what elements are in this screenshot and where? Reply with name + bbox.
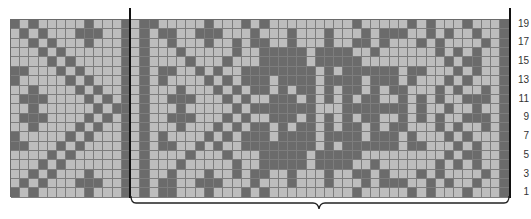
stitch-cell [177, 20, 186, 29]
stitch-cell [131, 67, 140, 76]
stitch-cell [186, 20, 195, 29]
stitch-cell [482, 114, 491, 123]
stitch-cell [214, 151, 223, 160]
stitch-cell [491, 95, 500, 104]
stitch-cell [140, 57, 149, 66]
stitch-cell [131, 57, 140, 66]
stitch-cell [66, 132, 75, 141]
stitch-cell [427, 132, 436, 141]
stitch-cell [57, 104, 66, 113]
stitch-cell [177, 179, 186, 188]
stitch-cell [103, 114, 112, 123]
stitch-cell [362, 160, 371, 169]
stitch-cell [168, 29, 177, 38]
stitch-cell [159, 151, 168, 160]
stitch-cell [427, 67, 436, 76]
stitch-cell [66, 67, 75, 76]
stitch-cell [325, 20, 334, 29]
stitch-cell [427, 86, 436, 95]
row-label: 3 [523, 169, 529, 179]
stitch-cell [270, 57, 279, 66]
stitch-cell [417, 123, 426, 132]
stitch-cell [242, 39, 251, 48]
stitch-cell [233, 170, 242, 179]
stitch-cell [307, 132, 316, 141]
stitch-cell [445, 179, 454, 188]
stitch-cell [270, 132, 279, 141]
stitch-cell [214, 179, 223, 188]
stitch-cell [482, 170, 491, 179]
stitch-cell [380, 142, 389, 151]
stitch-cell [270, 39, 279, 48]
stitch-cell [39, 39, 48, 48]
stitch-cell [417, 170, 426, 179]
stitch-cell [491, 57, 500, 66]
stitch-cell [214, 67, 223, 76]
stitch-cell [159, 179, 168, 188]
row-label: 19 [518, 19, 529, 29]
stitch-cell [343, 142, 352, 151]
stitch-cell [11, 48, 20, 57]
stitch-cell [473, 95, 482, 104]
stitch-cell [168, 57, 177, 66]
stitch-cell [445, 104, 454, 113]
stitch-cell [242, 132, 251, 141]
stitch-cell [279, 123, 288, 132]
stitch-cell [205, 20, 214, 29]
stitch-cell [168, 160, 177, 169]
stitch-cell [473, 57, 482, 66]
stitch-cell [417, 95, 426, 104]
stitch-cell [48, 29, 57, 38]
stitch-cell [196, 132, 205, 141]
stitch-cell [408, 104, 417, 113]
stitch-cell [399, 123, 408, 132]
stitch-cell [390, 76, 399, 85]
stitch-cell [454, 76, 463, 85]
stitch-cell [150, 132, 159, 141]
stitch-cell [113, 188, 122, 197]
stitch-cell [177, 29, 186, 38]
stitch-cell [159, 170, 168, 179]
stitch-cell [48, 104, 57, 113]
stitch-cell [251, 114, 260, 123]
stitch-cell [427, 142, 436, 151]
stitch-cell [473, 104, 482, 113]
stitch-cell [205, 39, 214, 48]
stitch-cell [325, 57, 334, 66]
stitch-cell [159, 29, 168, 38]
stitch-cell [325, 170, 334, 179]
stitch-cell [131, 170, 140, 179]
stitch-cell [223, 123, 232, 132]
stitch-cell [279, 76, 288, 85]
stitch-cell [150, 20, 159, 29]
stitch-cell [168, 151, 177, 160]
stitch-cell [334, 170, 343, 179]
stitch-cell [150, 76, 159, 85]
stitch-cell [399, 132, 408, 141]
stitch-cell [445, 76, 454, 85]
stitch-cell [270, 67, 279, 76]
stitch-cell [205, 142, 214, 151]
stitch-cell [94, 142, 103, 151]
stitch-cell [399, 76, 408, 85]
stitch-cell [270, 179, 279, 188]
stitch-cell [307, 160, 316, 169]
stitch-cell [159, 123, 168, 132]
stitch-cell [150, 114, 159, 123]
stitch-cell [463, 86, 472, 95]
stitch-cell [11, 188, 20, 197]
stitch-cell [325, 114, 334, 123]
stitch-cell [131, 132, 140, 141]
stitch-cell [94, 20, 103, 29]
stitch-cell [113, 76, 122, 85]
stitch-cell [343, 57, 352, 66]
stitch-cell [39, 132, 48, 141]
stitch-cell [168, 179, 177, 188]
stitch-cell [76, 67, 85, 76]
stitch-cell [150, 67, 159, 76]
stitch-cell [233, 132, 242, 141]
stitch-cell [131, 29, 140, 38]
stitch-cell [177, 95, 186, 104]
stitch-cell [445, 86, 454, 95]
stitch-cell [20, 48, 29, 57]
